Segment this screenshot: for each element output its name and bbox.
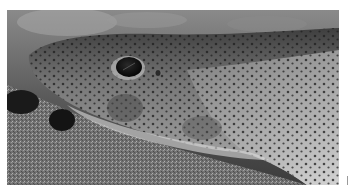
shark-photo: Grayscale close-up photograph of a small… <box>7 10 339 185</box>
shark-photo-graphic <box>7 10 339 185</box>
edge-mark <box>347 176 348 185</box>
shark-eye <box>116 57 142 77</box>
